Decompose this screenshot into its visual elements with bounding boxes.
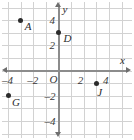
origin-label: O: [50, 74, 58, 85]
x-tick-label: 2: [78, 75, 84, 86]
x-axis-label: x: [120, 55, 125, 66]
coordinate-plane-figure: ADGJ x y O –4–22442–2–4: [0, 0, 134, 140]
x-tick-label: 4: [103, 75, 109, 86]
y-tick-label: 4: [50, 15, 56, 26]
y-tick-label: –2: [45, 91, 56, 102]
y-tick-label: –4: [45, 116, 56, 127]
x-tick-label: –2: [27, 75, 38, 86]
x-tick-label: –4: [2, 75, 13, 86]
labels-layer: x y O –4–22442–2–4: [0, 0, 134, 140]
y-axis-label: y: [63, 4, 68, 15]
y-tick-label: 2: [50, 40, 56, 51]
